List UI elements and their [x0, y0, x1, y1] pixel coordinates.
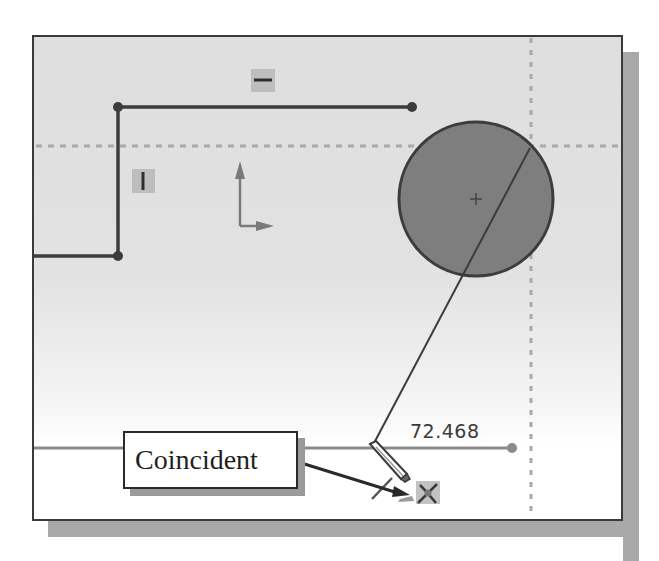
construction-endpoint[interactable] — [507, 443, 517, 453]
sketch-polyline[interactable] — [34, 107, 412, 256]
callout-arrow-shadow — [398, 496, 414, 502]
origin-y-arrow-icon — [235, 161, 245, 179]
endpoint[interactable] — [113, 102, 123, 112]
endpoint[interactable] — [113, 251, 123, 261]
callout-label: Coincident — [135, 444, 258, 476]
origin-x-arrow-icon — [256, 221, 274, 231]
sketch-canvas[interactable] — [0, 0, 659, 561]
coincident-glyph-point — [425, 490, 432, 497]
screenshot-stage: 72.468 Coincident — [0, 0, 659, 561]
endpoint[interactable] — [407, 102, 417, 112]
dimension-value: 72.468 — [410, 420, 479, 442]
callout-leader-line — [298, 462, 398, 493]
coincident-callout: Coincident — [123, 431, 298, 489]
callout-arrow-icon — [392, 486, 410, 497]
